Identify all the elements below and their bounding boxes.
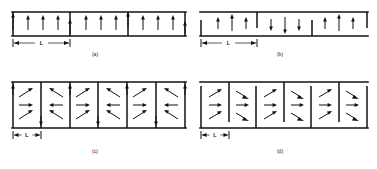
panel-c-domain-5-arrows	[125, 84, 147, 119]
panel-a-domain-1-arrows	[11, 13, 60, 30]
panel-a-domain-2-arrows	[68, 15, 118, 34]
panel-d-domain-5-arrows	[319, 89, 332, 119]
panel-c-domain-2-arrows	[39, 88, 63, 126]
panel-a-dimension-marker: L	[13, 39, 70, 47]
panel-a-domain-3-arrows	[126, 12, 187, 34]
panel-b-domain-3-arrows	[323, 14, 355, 31]
panel-d-dimension-marker: L	[201, 131, 229, 139]
panel-b-domain-1-arrows	[216, 14, 248, 31]
panel-c-domain-3-arrows	[68, 84, 90, 119]
panel-b-dimension-marker: L	[201, 39, 257, 47]
panel-c-domain-1-arrows	[11, 84, 33, 119]
panel-d-domain-4-arrows	[291, 91, 304, 121]
panel-c-diagram: L	[10, 78, 188, 140]
panel-b-caption: (b)	[255, 51, 305, 57]
panel-c-domain-4-arrows	[96, 88, 120, 126]
panel-c-dimension-marker: L	[13, 131, 41, 139]
panel-c-caption: (c)	[70, 148, 120, 154]
panel-b-diagram: L	[198, 8, 370, 48]
panel-d-domain-6-arrows	[346, 91, 359, 121]
figure-root: L (a)	[0, 0, 377, 169]
panel-d-domain-3-arrows	[264, 89, 277, 119]
panel-a-caption: (a)	[70, 51, 120, 57]
panel-d-caption: (d)	[255, 148, 305, 154]
panel-c-domain-6-arrows	[154, 84, 187, 126]
panel-d-domain-2-arrows	[236, 91, 249, 121]
panel-d-diagram: L	[198, 78, 370, 140]
panel-b-domain-2-arrows	[269, 17, 301, 34]
panel-d-domain-1-arrows	[209, 89, 222, 119]
panel-a-diagram: L	[10, 8, 188, 48]
